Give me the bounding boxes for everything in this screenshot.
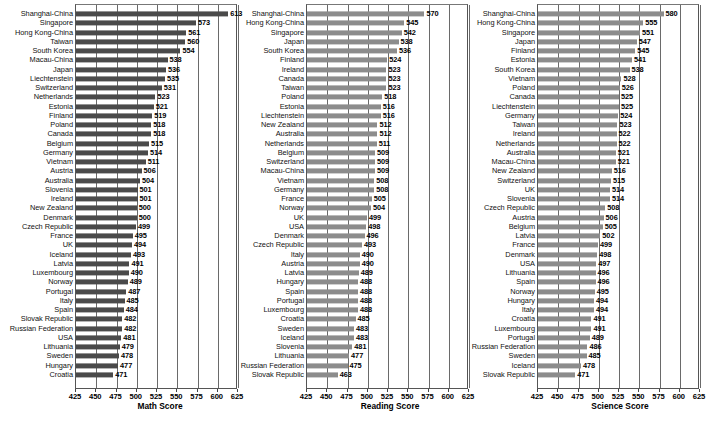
- bar: [538, 104, 619, 109]
- bar-row: Finland545: [538, 46, 700, 55]
- bar-row: Vietnam528: [538, 74, 700, 83]
- category-label: Netherlands: [496, 140, 538, 148]
- bar-row: Norway495: [538, 287, 700, 296]
- category-label: Hungary: [507, 297, 538, 305]
- bar-row: Hungary494: [538, 296, 700, 305]
- category-label: Lithuania: [505, 269, 538, 277]
- bar-row: Liechtenstein525: [538, 102, 700, 111]
- bar-row: Belgium505: [538, 222, 700, 231]
- bar: [538, 307, 594, 312]
- bar-value-label: 541: [632, 56, 646, 64]
- bar-value-label: 547: [637, 38, 651, 46]
- bar-row: South Korea538: [538, 65, 700, 74]
- bar: [538, 270, 596, 275]
- bar: [538, 30, 640, 35]
- bar: [538, 233, 600, 238]
- bar-value-label: 528: [621, 75, 635, 83]
- bar: [538, 95, 619, 100]
- bar-row: New Zealand516: [538, 167, 700, 176]
- bar-row: Switzerland515: [538, 176, 700, 185]
- bar: [538, 298, 594, 303]
- category-label: Taiwan: [512, 121, 538, 129]
- category-label: Canada: [509, 93, 538, 101]
- bar-value-label: 478: [581, 362, 595, 370]
- bar-value-label: 522: [617, 130, 631, 138]
- category-label: Liechtenstein: [492, 103, 538, 111]
- bar: [538, 317, 591, 322]
- category-label: UK: [525, 186, 538, 194]
- x-axis-title: Science Score: [540, 401, 700, 411]
- bar: [538, 289, 595, 294]
- category-label: USA: [520, 260, 538, 268]
- bar-row: Czech Republic508: [538, 204, 700, 213]
- gridline: [700, 5, 701, 388]
- bar: [538, 21, 643, 26]
- category-label: Germany: [505, 112, 538, 120]
- category-label: France: [512, 241, 538, 249]
- category-label: New Zealand: [492, 167, 538, 175]
- bar-row: Poland526: [538, 83, 700, 92]
- bar-value-label: 494: [594, 297, 608, 305]
- bar-value-label: 486: [587, 343, 601, 351]
- bar-value-label: 494: [594, 306, 608, 314]
- bar-value-label: 506: [604, 214, 618, 222]
- bar-value-label: 538: [630, 66, 644, 74]
- bar-row: France499: [538, 241, 700, 250]
- bar: [538, 280, 596, 285]
- bar: [538, 113, 618, 118]
- bar-row: Luxembourg491: [538, 324, 700, 333]
- bar-value-label: 580: [664, 10, 678, 18]
- category-label: Latvia: [516, 232, 538, 240]
- bar-value-label: 525: [619, 93, 633, 101]
- bar: [538, 85, 620, 90]
- bar: [538, 196, 610, 201]
- bar: [538, 261, 596, 266]
- bar-value-label: 515: [611, 177, 625, 185]
- bar-row: Slovenia514: [538, 194, 700, 203]
- bar-value-label: 502: [600, 232, 614, 240]
- bar: [538, 178, 611, 183]
- pisa-scores-figure: Shanghai-China613Singapore573Hong Kong-C…: [0, 0, 710, 424]
- category-label: Slovak Republic: [483, 371, 538, 379]
- bar: [538, 215, 604, 220]
- bar: [538, 354, 587, 359]
- bar-row: Latvia502: [538, 231, 700, 240]
- bar: [538, 372, 575, 377]
- category-label: South Korea: [494, 66, 538, 74]
- bar: [538, 326, 591, 331]
- bar-row: Spain496: [538, 278, 700, 287]
- plot-area: Shanghai-China580Hong Kong-China555Singa…: [537, 4, 699, 389]
- bar-row: Taiwan523: [538, 120, 700, 129]
- bar-value-label: 525: [619, 103, 633, 111]
- category-label: Russian Federation: [472, 343, 538, 351]
- bar-value-label: 522: [617, 140, 631, 148]
- bar: [538, 11, 664, 16]
- bar-value-label: 508: [605, 204, 619, 212]
- category-label: Spain: [516, 278, 538, 286]
- bar-row: Slovak Republic471: [538, 370, 700, 379]
- bar-row: Croatia491: [538, 315, 700, 324]
- bar-row: USA497: [538, 259, 700, 268]
- bar-value-label: 496: [596, 278, 610, 286]
- category-label: Australia: [507, 149, 538, 157]
- category-label: Belgium: [509, 223, 538, 231]
- bar: [538, 67, 630, 72]
- bar: [538, 363, 581, 368]
- bar: [538, 243, 598, 248]
- category-label: Macau-China: [492, 158, 538, 166]
- bar-value-label: 491: [591, 325, 605, 333]
- category-label: Sweden: [509, 352, 538, 360]
- category-label: Japan: [515, 38, 538, 46]
- bar-row: Ireland522: [538, 130, 700, 139]
- bar-value-label: 551: [640, 29, 654, 37]
- bar-row: Germany524: [538, 111, 700, 120]
- category-label: Czech Republic: [484, 204, 538, 212]
- bar-value-label: 524: [618, 112, 632, 120]
- bar-value-label: 491: [591, 315, 605, 323]
- bar-row: Lithuania496: [538, 268, 700, 277]
- category-label: Singapore: [502, 29, 538, 37]
- bar-row: Singapore551: [538, 28, 700, 37]
- bar: [538, 76, 621, 81]
- bar-row: Iceland478: [538, 361, 700, 370]
- bar: [538, 141, 617, 146]
